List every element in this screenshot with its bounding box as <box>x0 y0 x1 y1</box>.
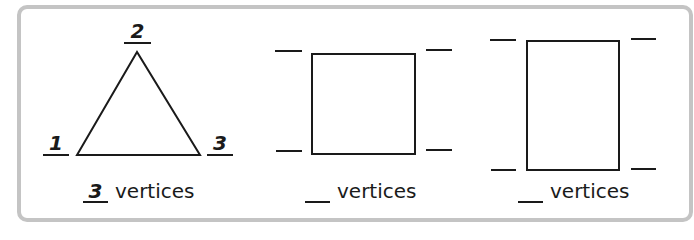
rectangle-count-label: vertices <box>550 179 629 203</box>
vertex-label-1: 1 <box>43 132 69 154</box>
square-shape <box>312 54 415 154</box>
rectangle-shape <box>527 41 619 170</box>
square-count-answer[interactable] <box>305 181 330 203</box>
triangle-vertex-count: 3vertices <box>83 179 194 203</box>
rectangle-vertex-count: vertices <box>518 179 629 203</box>
square-count-label: vertices <box>337 179 416 203</box>
vertex-label-3: 3 <box>207 132 233 154</box>
square-vertex-count: vertices <box>305 179 416 203</box>
rectangle-count-answer[interactable] <box>518 181 543 203</box>
triangle-count-label: vertices <box>115 179 194 203</box>
triangle-count-answer[interactable]: 3 <box>83 181 108 203</box>
vertex-label-2: 2 <box>124 20 151 42</box>
triangle-shape <box>77 52 200 155</box>
